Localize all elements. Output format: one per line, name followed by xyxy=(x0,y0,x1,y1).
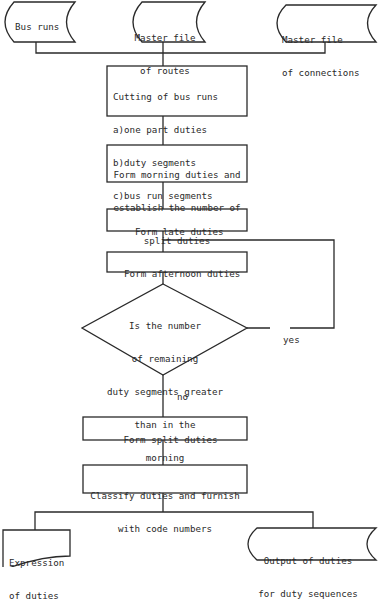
label-decision: Is the number of remaining duty segments… xyxy=(93,298,237,474)
label-line: Form afternoon duties xyxy=(124,268,240,279)
label-line: of duties xyxy=(9,590,64,601)
label-line: a)one part duties xyxy=(113,124,218,135)
label-output-sequences: Output of duties for duty sequences xyxy=(252,533,364,603)
label-line: for duty sequences xyxy=(252,588,364,599)
label-line: Master file xyxy=(132,32,198,43)
label-split: Form split duties xyxy=(83,423,247,445)
label-line: Classify duties and furnish xyxy=(83,490,247,501)
label-master-connections: Master file of connections xyxy=(282,12,359,89)
label-line: yes xyxy=(283,334,300,345)
label-yes: yes xyxy=(272,323,300,345)
label-line: no xyxy=(177,391,188,402)
label-line: morning xyxy=(93,452,237,463)
label-line: Bus runs xyxy=(15,21,59,32)
label-line: Output of duties xyxy=(252,555,364,566)
label-line: Is the number xyxy=(93,320,237,331)
label-line: of connections xyxy=(282,67,359,78)
label-line: duty segments greater xyxy=(93,386,237,397)
label-line: Form late duties xyxy=(135,226,224,237)
label-line: Cutting of bus runs xyxy=(113,91,218,102)
label-line: Expression xyxy=(9,557,64,568)
label-line: of remaining xyxy=(93,353,237,364)
label-bus-runs: Bus runs xyxy=(4,10,59,32)
label-line: Master file xyxy=(282,34,359,45)
label-expression: Expression of duties xyxy=(9,535,64,603)
label-afternoon: Form afternoon duties xyxy=(113,257,240,279)
label-morning: Form morning duties and establish the nu… xyxy=(107,147,247,257)
label-line: Form morning duties and xyxy=(107,169,247,180)
label-classify: Classify duties and furnish with code nu… xyxy=(83,468,247,545)
label-late: Form late duties xyxy=(124,215,224,237)
label-no: no xyxy=(166,380,188,402)
label-line: Form split duties xyxy=(124,434,218,445)
label-line: with code numbers xyxy=(83,523,247,534)
label-line: establish the number of xyxy=(107,202,247,213)
